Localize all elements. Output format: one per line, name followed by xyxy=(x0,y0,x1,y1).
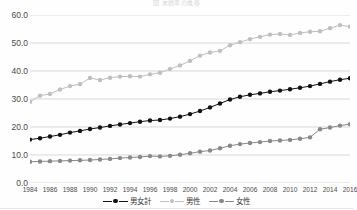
x-axis-tick-label: 2010 xyxy=(283,185,298,194)
data-point xyxy=(188,59,192,63)
data-point xyxy=(118,74,122,78)
data-point xyxy=(158,118,162,122)
data-point xyxy=(118,122,122,126)
x-axis-tick-label: 1984 xyxy=(23,185,38,194)
series-1 xyxy=(30,23,350,104)
data-point xyxy=(268,90,272,94)
data-point xyxy=(258,35,262,39)
data-point xyxy=(188,112,192,116)
data-point xyxy=(178,63,182,67)
plot-svg xyxy=(30,15,350,183)
data-point xyxy=(108,157,112,161)
data-point xyxy=(238,95,242,99)
data-point xyxy=(78,158,82,162)
data-point xyxy=(168,116,172,120)
x-axis-tick-label: 1996 xyxy=(143,185,158,194)
data-point xyxy=(288,138,292,142)
legend-item-1[interactable]: 男性 xyxy=(160,197,201,206)
data-point xyxy=(288,33,292,37)
data-point xyxy=(198,149,202,153)
data-point xyxy=(58,87,62,91)
data-point xyxy=(78,129,82,133)
data-point xyxy=(308,135,312,139)
data-point xyxy=(128,155,132,159)
legend-label: 男女計 xyxy=(130,197,151,206)
data-point xyxy=(178,153,182,157)
data-point xyxy=(278,138,282,142)
legend-line-icon xyxy=(175,201,184,202)
data-point xyxy=(48,134,52,138)
y-axis-labels: 60.050.040.030.020.010.00.0 xyxy=(0,0,28,210)
x-axis-tick-label: 1986 xyxy=(43,185,58,194)
data-point xyxy=(268,139,272,143)
data-point xyxy=(298,137,302,141)
data-point xyxy=(328,125,332,129)
data-point xyxy=(228,43,232,47)
data-point xyxy=(198,109,202,113)
y-axis-tick-label: 50.0 xyxy=(2,39,28,47)
data-point xyxy=(138,119,142,123)
data-point xyxy=(208,50,212,54)
data-point xyxy=(148,72,152,76)
data-point xyxy=(68,130,72,134)
bottom-divider xyxy=(0,208,353,209)
data-point xyxy=(30,160,32,164)
x-axis-tick-label: 2004 xyxy=(223,185,238,194)
legend-label: 男性 xyxy=(186,197,200,206)
y-axis-tick-label: 30.0 xyxy=(2,95,28,103)
data-point xyxy=(38,93,42,97)
data-point xyxy=(298,31,302,35)
legend-item-2[interactable]: 女性 xyxy=(209,197,250,206)
data-point xyxy=(30,137,32,141)
chart-legend: 男女計男性女性 xyxy=(0,194,353,208)
x-axis-tick-label: 2000 xyxy=(183,185,198,194)
x-axis-tick-label: 1990 xyxy=(83,185,98,194)
data-point xyxy=(308,84,312,88)
y-axis-tick-label: 60.0 xyxy=(2,11,28,19)
plot-area xyxy=(30,15,350,183)
data-point xyxy=(318,127,322,131)
data-point xyxy=(228,144,232,148)
data-point xyxy=(208,148,212,152)
x-axis-tick-label: 2014 xyxy=(323,185,338,194)
legend-line-icon xyxy=(160,201,169,202)
data-point xyxy=(348,25,350,29)
legend-label: 女性 xyxy=(236,197,250,206)
legend-line-icon xyxy=(103,201,112,202)
data-point xyxy=(158,70,162,74)
data-point xyxy=(258,140,262,144)
legend-line-icon xyxy=(119,201,128,202)
data-point xyxy=(328,79,332,83)
data-point xyxy=(58,159,62,163)
data-point xyxy=(118,156,122,160)
legend-item-0[interactable]: 男女計 xyxy=(103,197,151,206)
data-point xyxy=(138,74,142,78)
x-axis-tick-label: 2016 xyxy=(343,185,357,194)
data-point xyxy=(318,29,322,33)
data-point xyxy=(248,37,252,41)
x-axis-tick-label: 1992 xyxy=(103,185,118,194)
data-point xyxy=(268,32,272,36)
data-point xyxy=(328,26,332,30)
data-point xyxy=(218,101,222,105)
x-axis-tick-label: 1998 xyxy=(163,185,178,194)
data-point xyxy=(148,154,152,158)
data-point xyxy=(278,88,282,92)
data-point xyxy=(58,133,62,137)
data-point xyxy=(278,32,282,36)
legend-line-icon xyxy=(225,201,234,202)
data-point xyxy=(98,125,102,129)
data-point xyxy=(98,157,102,161)
data-point xyxy=(108,76,112,80)
data-point xyxy=(248,141,252,145)
data-point xyxy=(188,151,192,155)
data-point xyxy=(98,78,102,82)
data-point xyxy=(208,105,212,109)
data-point xyxy=(68,158,72,162)
data-point xyxy=(218,49,222,53)
legend-line-icon xyxy=(209,201,218,202)
x-axis-tick-label: 2012 xyxy=(303,185,318,194)
data-point xyxy=(248,93,252,97)
y-axis-tick-label: 10.0 xyxy=(2,151,28,159)
